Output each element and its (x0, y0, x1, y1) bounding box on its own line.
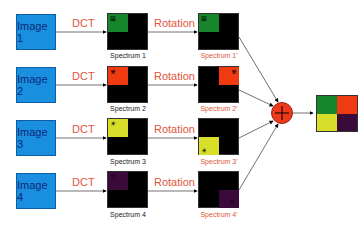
rotated-spectrum-4-glyph-icon: ✲ (229, 198, 235, 205)
rotated-spectrum-3-quadrant: ☀ (199, 137, 219, 155)
spectrum-1: ⊠ (107, 13, 148, 50)
spectrum-3-quadrant: ☀ (108, 119, 128, 137)
spectrum-3: ☀ (107, 118, 148, 155)
rotated-spectrum-1-quadrant: ⊠ (199, 14, 219, 32)
image-2-box: Image 2 (16, 67, 56, 103)
rotation-label-4: Rotation (154, 176, 195, 188)
rotated-spectrum-2-glyph-icon: ⋇ (231, 68, 237, 75)
spectrum-4-caption: Spectrum 4 (98, 211, 158, 218)
rotated-spectrum-1-caption: Spectrum 1' (189, 52, 249, 59)
rotation-label-1: Rotation (154, 17, 195, 29)
spectrum-4: ✲ (107, 171, 148, 208)
image-3-box: Image 3 (16, 120, 56, 156)
image-1-box: Image 1 (16, 14, 56, 50)
rotated-spectrum-1-glyph-icon: ⊠ (201, 15, 207, 22)
dct-label-2: DCT (72, 70, 95, 82)
combined-quadrant-3 (317, 114, 337, 132)
spectrum-1-caption: Spectrum 1 (98, 52, 158, 59)
spectrum-1-quadrant: ⊠ (108, 14, 128, 32)
image-2-label: Image 2 (17, 73, 55, 97)
spectrum-2-caption: Spectrum 2 (98, 105, 158, 112)
spectrum-4-glyph-icon: ✲ (110, 173, 116, 180)
dct-label-4: DCT (72, 176, 95, 188)
image-1-label: Image 1 (17, 20, 55, 44)
dct-label-3: DCT (72, 123, 95, 135)
spectrum-3-caption: Spectrum 3 (98, 158, 158, 165)
rotated-spectrum-3: ☀ (198, 118, 239, 155)
sum-node (271, 102, 293, 124)
image-3-label: Image 3 (17, 126, 55, 150)
spectrum-1-glyph-icon: ⊠ (110, 15, 116, 22)
rotated-spectrum-4-caption: Spectrum 4' (189, 211, 249, 218)
rotated-spectrum-3-glyph-icon: ☀ (201, 147, 207, 154)
spectrum-4-quadrant: ✲ (108, 172, 128, 190)
combined-quadrant-4 (337, 114, 357, 132)
dct-label-1: DCT (72, 17, 95, 29)
rotated-spectrum-1: ⊠ (198, 13, 239, 50)
image-4-label: Image 4 (17, 179, 55, 203)
spectrum-3-glyph-icon: ☀ (110, 120, 116, 127)
rotated-spectrum-2: ⋇ (198, 66, 239, 103)
image-4-box: Image 4 (16, 173, 56, 209)
rotated-spectrum-4: ✲ (198, 171, 239, 208)
rotation-label-2: Rotation (154, 70, 195, 82)
spectrum-2-glyph-icon: ⋇ (110, 68, 116, 75)
rotated-spectrum-2-caption: Spectrum 2' (189, 105, 249, 112)
combined-quadrant-2 (337, 96, 357, 114)
rotated-spectrum-3-caption: Spectrum 3' (189, 158, 249, 165)
plus-icon (272, 103, 292, 123)
rotation-label-3: Rotation (154, 123, 195, 135)
rotated-spectrum-4-quadrant: ✲ (219, 190, 239, 208)
combined-spectrum (316, 95, 358, 132)
combined-quadrant-1 (317, 96, 337, 114)
spectrum-2-quadrant: ⋇ (108, 67, 128, 85)
rotated-spectrum-2-quadrant: ⋇ (219, 67, 239, 85)
spectrum-2: ⋇ (107, 66, 148, 103)
